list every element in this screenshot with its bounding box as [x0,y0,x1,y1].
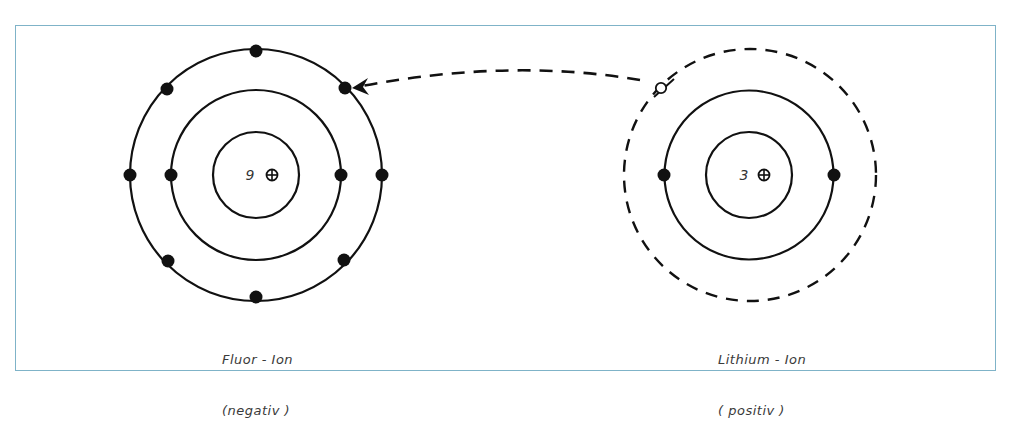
lithium-label: Lithium - Ion ( positiv ) [718,317,806,422]
fluorine-nucleus-circle [213,132,299,218]
lithium-ion: 3 [624,49,876,301]
electron [828,169,841,182]
fluorine-nucleus-charge: 9 [246,167,255,183]
electron [335,169,348,182]
electron [250,291,263,304]
electron [161,83,174,96]
electron [124,169,137,182]
electron [162,255,175,268]
electron-transfer-arrow [352,70,640,95]
electron [658,169,671,182]
fluorine-label: Fluor - Ion (negativ ) [222,317,293,422]
plus-circle-icon [267,170,278,181]
fluorine-ion: 9 [124,45,389,304]
plus-circle-icon [759,170,770,181]
fluorine-label-name: Fluor - Ion [222,351,293,368]
fluorine-label-charge: (negativ ) [222,402,293,419]
electron [376,169,389,182]
electron [250,45,263,58]
vacated-electron [656,83,666,93]
electron [338,254,351,267]
arrowhead-icon [352,78,369,95]
lithium-nucleus-circle [706,132,792,218]
lithium-label-name: Lithium - Ion [718,351,806,368]
lithium-label-charge: ( positiv ) [718,402,806,419]
fluorine-inner-shell [171,90,341,260]
lithium-inner-shell [665,91,834,260]
electron-received [339,82,352,95]
electron [165,169,178,182]
lithium-nucleus-charge: 3 [740,167,749,183]
